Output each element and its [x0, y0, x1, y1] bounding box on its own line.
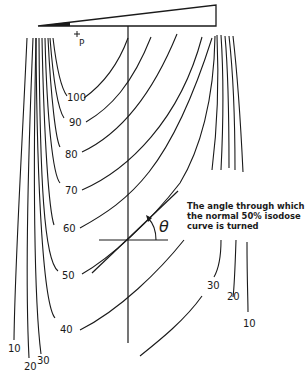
label-80: 80: [65, 149, 78, 160]
label-left-20: 20: [24, 361, 37, 372]
isodose-right-30-curve: [214, 35, 223, 277]
isodose-lower-30-curve: [140, 296, 202, 356]
label-90: 90: [69, 117, 82, 128]
isodose-right-20-curve: [225, 36, 236, 297]
label-70: 70: [65, 185, 78, 196]
annotation-line-1: The angle through which: [187, 201, 305, 211]
label-60: 60: [63, 223, 76, 234]
label-50: 50: [62, 270, 75, 281]
isodose-left-10-curve: [14, 38, 27, 340]
isodose-70-curve: [45, 37, 202, 190]
label-100: 100: [67, 92, 86, 103]
isodose-60-curve: [42, 38, 212, 228]
point-p-marker: [74, 31, 80, 37]
isodose-100-curve: [53, 38, 128, 98]
isodose-right-extra-curve-2: [212, 35, 218, 170]
label-left-10: 10: [8, 343, 21, 354]
isodose-diagram: P θ The angle through which the normal 5…: [0, 0, 305, 376]
isodose-90-curve: [50, 37, 151, 122]
isodose-left-20-curve: [27, 38, 33, 358]
isodose-40-curve: [36, 38, 184, 330]
theta-symbol: θ: [159, 217, 169, 236]
label-40: 40: [60, 324, 73, 335]
label-left-30: 30: [37, 355, 50, 366]
point-p-label: P: [79, 38, 85, 48]
label-right-10: 10: [243, 318, 256, 329]
annotation-line-3: curve is turned: [187, 221, 259, 231]
angle-arc: [148, 218, 156, 240]
label-right-20: 20: [227, 291, 240, 302]
isodose-right-10-curve: [229, 36, 248, 312]
label-right-30: 30: [207, 280, 220, 291]
annotation-line-2: the normal 50% isodose: [187, 211, 301, 221]
